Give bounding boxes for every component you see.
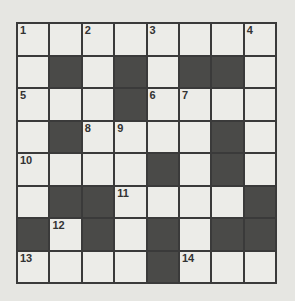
- crossword-cell[interactable]: 2: [83, 24, 113, 55]
- black-square: [50, 57, 80, 88]
- crossword-cell[interactable]: 13: [18, 252, 48, 283]
- crossword-cell[interactable]: [83, 57, 113, 88]
- crossword-cell[interactable]: [212, 187, 242, 218]
- crossword-cell[interactable]: [245, 154, 275, 185]
- crossword-cell[interactable]: [245, 89, 275, 120]
- black-square: [115, 89, 145, 120]
- black-square: [50, 122, 80, 153]
- crossword-cell[interactable]: [180, 187, 210, 218]
- crossword-cell[interactable]: [148, 187, 178, 218]
- crossword-cell[interactable]: [212, 24, 242, 55]
- black-square: [18, 219, 48, 250]
- crossword-cell[interactable]: 6: [148, 89, 178, 120]
- black-square: [148, 252, 178, 283]
- crossword-cell[interactable]: [212, 89, 242, 120]
- crossword-cell[interactable]: 8: [83, 122, 113, 153]
- crossword-cell[interactable]: [50, 252, 80, 283]
- crossword-cell[interactable]: [18, 122, 48, 153]
- crossword-cell[interactable]: 5: [18, 89, 48, 120]
- black-square: [245, 187, 275, 218]
- clue-number: 1: [20, 25, 26, 36]
- crossword-cell[interactable]: 4: [245, 24, 275, 55]
- black-square: [83, 187, 113, 218]
- crossword-cell[interactable]: [245, 57, 275, 88]
- crossword-cell[interactable]: 10: [18, 154, 48, 185]
- crossword-cell[interactable]: 9: [115, 122, 145, 153]
- crossword-cell[interactable]: [50, 24, 80, 55]
- black-square: [148, 154, 178, 185]
- crossword-cell[interactable]: [115, 154, 145, 185]
- black-square: [212, 57, 242, 88]
- crossword-grid: 1234567891011121314: [16, 22, 277, 284]
- crossword-cell[interactable]: [18, 187, 48, 218]
- black-square: [83, 219, 113, 250]
- crossword-cell[interactable]: [18, 57, 48, 88]
- clue-number: 13: [20, 253, 32, 264]
- crossword-cell[interactable]: 12: [50, 219, 80, 250]
- clue-number: 12: [52, 220, 64, 231]
- black-square: [245, 219, 275, 250]
- clue-number: 9: [117, 123, 123, 134]
- crossword-cell[interactable]: [115, 219, 145, 250]
- clue-number: 8: [85, 123, 91, 134]
- crossword-cell[interactable]: [50, 154, 80, 185]
- clue-number: 6: [150, 90, 156, 101]
- crossword-cell[interactable]: [180, 122, 210, 153]
- crossword-cell[interactable]: [180, 24, 210, 55]
- clue-number: 5: [20, 90, 26, 101]
- black-square: [180, 57, 210, 88]
- clue-number: 11: [117, 188, 129, 199]
- crossword-cell[interactable]: 7: [180, 89, 210, 120]
- clue-number: 14: [182, 253, 194, 264]
- crossword-cell[interactable]: [245, 122, 275, 153]
- clue-number: 3: [150, 25, 156, 36]
- black-square: [50, 187, 80, 218]
- crossword-cell[interactable]: [83, 89, 113, 120]
- crossword-cell[interactable]: [115, 24, 145, 55]
- crossword-cell[interactable]: [83, 252, 113, 283]
- clue-number: 2: [85, 25, 91, 36]
- crossword-cell[interactable]: [83, 154, 113, 185]
- clue-number: 4: [247, 25, 253, 36]
- clue-number: 7: [182, 90, 188, 101]
- crossword-cell[interactable]: [180, 154, 210, 185]
- black-square: [115, 57, 145, 88]
- crossword-cell[interactable]: [245, 252, 275, 283]
- crossword-cell[interactable]: 1: [18, 24, 48, 55]
- clue-number: 10: [20, 155, 32, 166]
- crossword-cell[interactable]: [212, 252, 242, 283]
- crossword-cell[interactable]: [148, 57, 178, 88]
- black-square: [212, 154, 242, 185]
- crossword-cell[interactable]: [180, 219, 210, 250]
- crossword-cell[interactable]: 3: [148, 24, 178, 55]
- crossword-cell[interactable]: [115, 252, 145, 283]
- crossword-cell[interactable]: 14: [180, 252, 210, 283]
- black-square: [148, 219, 178, 250]
- black-square: [212, 219, 242, 250]
- crossword-cell[interactable]: [50, 89, 80, 120]
- black-square: [212, 122, 242, 153]
- crossword-cell[interactable]: 11: [115, 187, 145, 218]
- crossword-cell[interactable]: [148, 122, 178, 153]
